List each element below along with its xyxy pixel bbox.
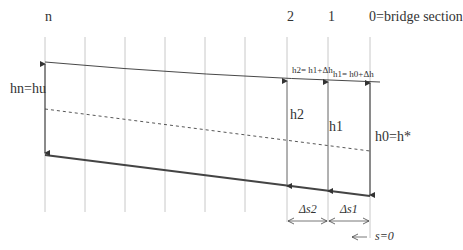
surface-label-h1: h1= h0+Δh xyxy=(333,70,374,79)
depth-label-hn: hn=hu xyxy=(10,82,46,96)
section-label-1: 1 xyxy=(328,10,335,24)
surface-label-h2: h2= h1+Δh xyxy=(292,66,333,75)
origin-label: s=0 xyxy=(375,230,394,242)
depth-label-h1: h1 xyxy=(329,120,343,134)
section-label-2: 2 xyxy=(287,10,294,24)
depth-label-h0: h0=h* xyxy=(375,130,411,144)
critical-depth-line xyxy=(45,109,370,151)
distance-label-ds1: Δs1 xyxy=(340,203,358,215)
distance-label-ds2: Δs2 xyxy=(299,203,317,215)
section-label-n: n xyxy=(45,10,52,24)
channel-bed-line xyxy=(45,155,370,196)
section-label-0: 0=bridge section xyxy=(369,10,463,24)
depth-label-h2: h2 xyxy=(290,108,304,122)
